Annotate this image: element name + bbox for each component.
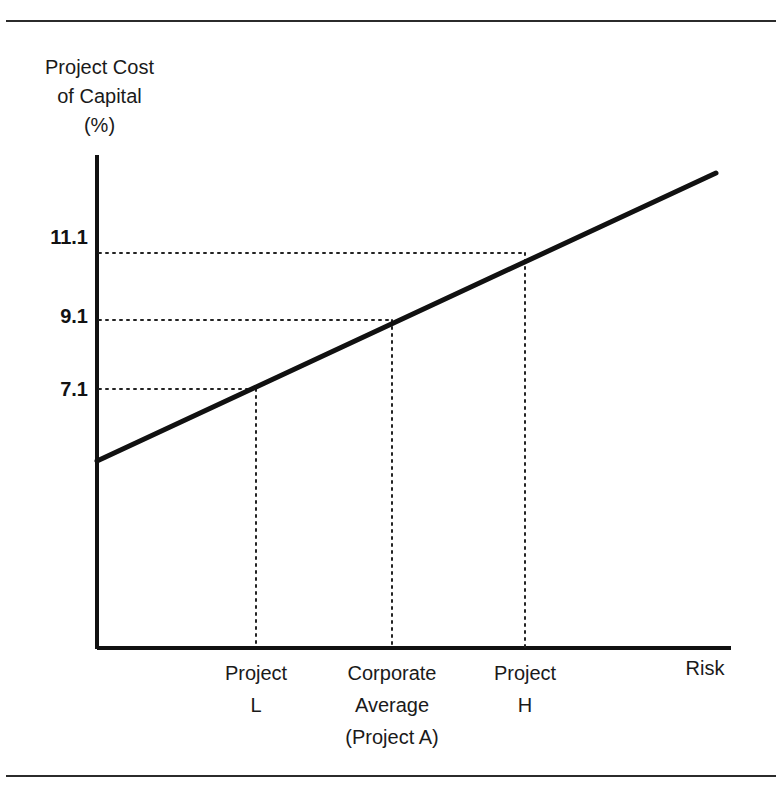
x-category-label-corporate-average-line-3: (Project A): [312, 721, 472, 753]
figure-canvas: Project Cost of Capital (%) 11.1 9.1 7.1…: [0, 0, 782, 796]
x-axis-title: Risk: [660, 657, 750, 680]
x-category-label-corporate-average-line-2: Average: [312, 689, 472, 721]
security-market-line: [97, 173, 716, 461]
y-tick-label-11-1: 11.1: [16, 226, 88, 249]
y-axis-title-line-2: of Capital: [22, 82, 177, 111]
x-category-label-project-l-line-2: L: [181, 689, 331, 721]
y-axis-title-line-1: Project Cost: [22, 53, 177, 82]
x-category-label-project-l-line-1: Project: [181, 657, 331, 689]
y-axis-title-line-3: (%): [22, 111, 177, 140]
x-category-label-corporate-average: Corporate Average (Project A): [312, 657, 472, 753]
x-category-label-project-l: Project L: [181, 657, 331, 721]
x-category-label-project-h-line-1: Project: [450, 657, 600, 689]
y-tick-label-9-1: 9.1: [16, 305, 88, 328]
x-category-label-project-h-line-2: H: [450, 689, 600, 721]
y-axis-title: Project Cost of Capital (%): [22, 53, 177, 140]
x-category-label-project-h: Project H: [450, 657, 600, 721]
x-category-label-corporate-average-line-1: Corporate: [312, 657, 472, 689]
y-tick-label-7-1: 7.1: [16, 378, 88, 401]
